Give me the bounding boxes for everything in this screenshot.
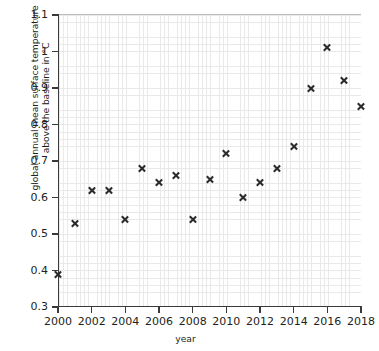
data-point-marker [155, 178, 164, 187]
y-tick-label: 0.4 [31, 265, 49, 276]
y-tick-label: 0.9 [31, 82, 49, 93]
data-point-marker [256, 178, 265, 187]
x-tick-mark [360, 306, 361, 313]
y-tick-label: 1.1 [31, 9, 49, 20]
x-tick-mark [158, 306, 159, 313]
x-tick-mark [226, 306, 227, 313]
data-point-marker [289, 142, 298, 151]
data-point-marker [70, 219, 79, 228]
x-tick-mark [293, 306, 294, 313]
y-tick-mark [52, 87, 59, 88]
data-point-marker [272, 164, 281, 173]
data-point-marker [357, 102, 366, 111]
x-tick-label: 2018 [339, 315, 379, 328]
data-point-marker [171, 171, 180, 180]
data-point-marker [104, 186, 113, 195]
x-tick-mark [91, 306, 92, 313]
data-point-marker [121, 215, 130, 224]
y-tick-mark [52, 197, 59, 198]
plot-area [58, 15, 361, 307]
y-tick-label: 1 [41, 46, 48, 57]
data-point-marker [205, 175, 214, 184]
y-tick-mark [52, 160, 59, 161]
x-tick-mark [192, 306, 193, 313]
x-tick-mark [327, 306, 328, 313]
data-point-marker [54, 270, 63, 279]
data-point-marker [138, 164, 147, 173]
data-point-marker [340, 76, 349, 85]
y-tick-label: 0.3 [31, 301, 49, 312]
x-tick-mark [125, 306, 126, 313]
x-tick-mark [57, 306, 58, 313]
data-point-marker [323, 43, 332, 52]
y-tick-mark [52, 124, 59, 125]
y-tick-mark [52, 233, 59, 234]
y-tick-label: 0.5 [31, 228, 49, 239]
x-tick-mark [259, 306, 260, 313]
y-tick-label: 0.6 [31, 192, 49, 203]
y-tick-label: 0.8 [31, 119, 49, 130]
y-tick-mark [52, 51, 59, 52]
data-point-marker [87, 186, 96, 195]
data-point-marker [188, 215, 197, 224]
y-tick-label: 0.7 [31, 155, 49, 166]
data-point-marker [222, 149, 231, 158]
data-point-marker [306, 84, 315, 93]
x-axis-title: year [0, 333, 371, 344]
y-axis-title-line2: above the baseline in °C [40, 43, 52, 153]
y-tick-mark [52, 14, 59, 15]
data-point-marker [239, 193, 248, 202]
